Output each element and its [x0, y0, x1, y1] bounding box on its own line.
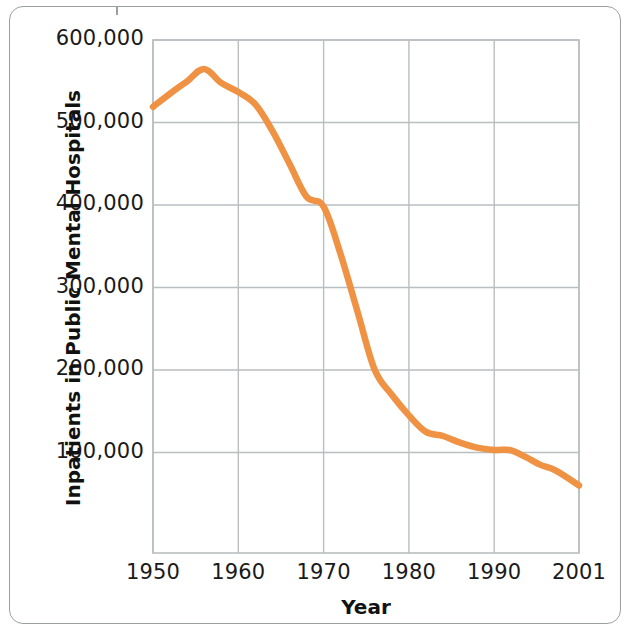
data-series-line	[153, 69, 579, 486]
x-tick-label: 1990	[449, 560, 539, 584]
vertical-gridlines	[153, 40, 579, 553]
line-chart: 600,000500,000400,000300,000200,000100,0…	[0, 0, 629, 630]
y-tick-label: 600,000	[4, 26, 144, 50]
plot-area-border	[153, 40, 579, 553]
x-axis-tick-labels: 195019601970198019902001	[0, 560, 629, 594]
x-tick-label: 1980	[364, 560, 454, 584]
y-axis-title: Inpatients in Public Mental Hospitals	[61, 58, 85, 538]
x-tick-label: 1950	[108, 560, 198, 584]
x-tick-label: 2001	[534, 560, 624, 584]
horizontal-gridlines	[153, 40, 579, 453]
x-tick-label: 1960	[193, 560, 283, 584]
x-tick-label: 1970	[279, 560, 369, 584]
x-axis-title: Year	[153, 595, 579, 619]
